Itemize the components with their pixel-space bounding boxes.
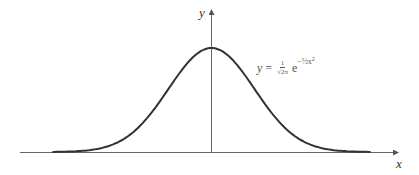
y-axis-label: y xyxy=(199,6,205,19)
exponent-text: −½x xyxy=(297,57,312,66)
equation-lhs: y xyxy=(257,62,262,74)
equation-equals: = xyxy=(265,62,272,74)
x-axis-label: x xyxy=(396,157,402,170)
normal-distribution-plot xyxy=(0,0,419,175)
equation-fraction: 1 √2π xyxy=(277,60,288,76)
equation-label: y = 1 √2π e −½x2 xyxy=(257,60,315,76)
exponent-power: 2 xyxy=(312,56,315,62)
fraction-numerator: 1 xyxy=(280,60,286,68)
equation-exponent: −½x2 xyxy=(297,58,315,66)
fraction-denominator: √2π xyxy=(277,68,288,76)
